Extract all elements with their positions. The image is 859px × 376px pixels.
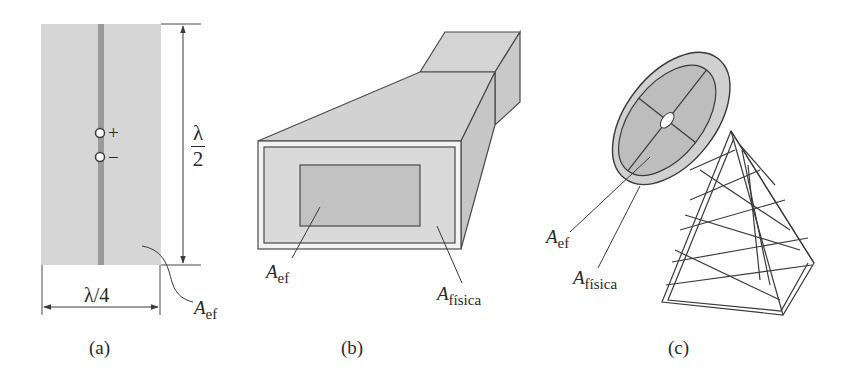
aef-sub: ef — [558, 235, 570, 251]
feed-terminal-plus — [96, 129, 105, 138]
afisica-label-b: Afísica — [437, 284, 481, 303]
afisica-label-c: Afísica — [573, 268, 617, 287]
diagram-canvas — [0, 0, 859, 376]
panel-a-dipole — [41, 24, 201, 315]
aef-label-b: Aef — [266, 262, 289, 281]
caption-c: (c) — [668, 338, 689, 357]
aef-label-a: Aef — [194, 298, 217, 317]
width-label: λ/4 — [84, 285, 109, 305]
dipole-element — [98, 24, 104, 265]
panel-b-horn — [258, 32, 520, 283]
minus-sign: − — [108, 148, 119, 167]
afisica-sub: física — [449, 292, 481, 308]
afisica-sub: física — [585, 276, 617, 292]
height-numerator: λ — [193, 123, 203, 144]
afisica-main: A — [573, 267, 585, 288]
aef-main: A — [194, 297, 206, 318]
aef-sub: ef — [278, 270, 290, 286]
aef-label-c: Aef — [546, 227, 569, 246]
caption-a: (a) — [89, 338, 110, 357]
feed-terminal-minus — [96, 153, 105, 162]
height-label: λ 2 — [191, 123, 205, 170]
plus-sign: + — [108, 123, 119, 142]
aef-main: A — [546, 226, 558, 247]
aef-leader-c — [570, 157, 650, 232]
afisica-main: A — [437, 283, 449, 304]
horn-flare-top — [258, 72, 495, 141]
height-denominator: 2 — [193, 149, 204, 170]
aef-main: A — [266, 261, 278, 282]
effective-aperture-rect — [300, 165, 420, 226]
caption-b: (b) — [341, 338, 363, 357]
afisica-leader-c — [598, 186, 640, 268]
aef-sub: ef — [206, 306, 218, 322]
